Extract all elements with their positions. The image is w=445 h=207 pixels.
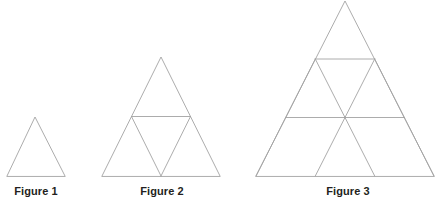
figure-3-left-parallel-bottom: [345, 118, 375, 177]
figure-3-right-parallel-bottom: [315, 118, 345, 177]
figure-1-outline: [7, 117, 65, 176]
figure-3-left-parallel-outer: [375, 59, 405, 118]
figure-3-left-parallel-bottom-outer: [404, 118, 434, 177]
figure-3-right-parallel-bottom-outer: [256, 118, 286, 177]
figure-2-triangle-group: [102, 57, 220, 176]
figure-3-left-parallel-inner: [315, 59, 345, 118]
figure-3-right-parallel-outer: [286, 59, 316, 118]
triangle-figures-svg: [0, 0, 445, 207]
figure-2-label: Figure 2: [126, 185, 198, 198]
figure-3-outline: [256, 1, 434, 176]
figure-3-label: Figure 3: [310, 185, 386, 198]
figure-2-midline-left: [132, 117, 162, 177]
figure-2-midline-right: [161, 117, 191, 177]
figure-3-triangle-group: [256, 1, 434, 176]
figure-1-triangle-group: [7, 117, 65, 176]
figure-3-right-parallel-inner: [345, 59, 375, 118]
figure-sequence-canvas: Figure 1 Figure 2 Figure 3: [0, 0, 445, 207]
figure-1-label: Figure 1: [0, 185, 72, 198]
